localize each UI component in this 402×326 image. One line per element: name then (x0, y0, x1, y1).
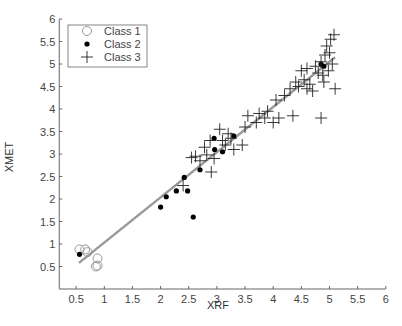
x-tick-label: 3.5 (237, 293, 252, 305)
y-tick-label: 0.5 (40, 261, 55, 273)
x-tick-label: 5 (326, 293, 332, 305)
x-axis-label: XRF (207, 299, 229, 311)
y-tick-label: 2.5 (40, 171, 55, 183)
y-tick-label: 1 (49, 238, 55, 250)
x-tick-label: 0.5 (69, 293, 84, 305)
legend-entry: Class 1 (104, 25, 141, 37)
scatter-chart: 0.511.522.533.544.555.560.511.522.533.54… (0, 0, 402, 326)
x-tick-label: 1.5 (125, 293, 140, 305)
y-tick-label: 5 (49, 58, 55, 70)
x-tick-label: 4 (270, 293, 276, 305)
y-tick-label: 5.5 (40, 36, 55, 48)
x-tick-label: 2 (158, 293, 164, 305)
x-tick-label: 6 (383, 293, 389, 305)
x-tick-label: 4.5 (294, 293, 309, 305)
series-class-2 (77, 61, 327, 257)
legend-entry: Class 3 (104, 51, 141, 63)
y-axis-label: XMET (3, 141, 15, 172)
y-tick-label: 4 (49, 103, 55, 115)
legend-entry: Class 2 (104, 38, 141, 50)
x-tick-label: 5.5 (350, 293, 365, 305)
y-tick-label: 3 (49, 148, 55, 160)
series-class-3 (177, 29, 341, 192)
legend: Class 1Class 2Class 3 (68, 25, 147, 67)
y-tick-label: 4.5 (40, 81, 55, 93)
y-tick-label: 6 (49, 13, 55, 25)
x-tick-label: 1 (101, 293, 107, 305)
x-tick-label: 2.5 (181, 293, 196, 305)
y-tick-label: 1.5 (40, 216, 55, 228)
y-tick-label: 3.5 (40, 126, 55, 138)
y-tick-label: 2 (49, 193, 55, 205)
